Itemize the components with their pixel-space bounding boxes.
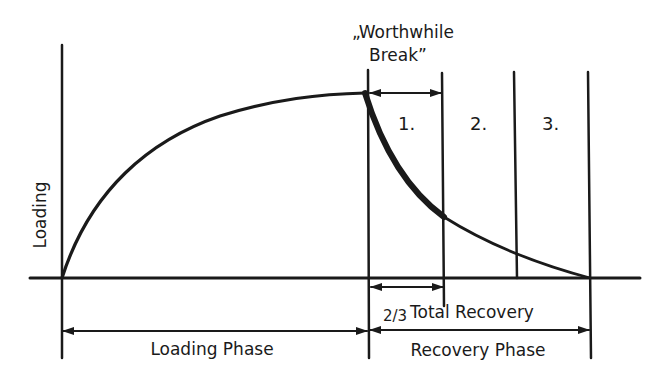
worthwhile-break-label-line1: „Worthwhile	[352, 22, 454, 42]
segment-1-label: 1.	[398, 113, 415, 134]
loading-curve	[62, 93, 365, 278]
segment-3-label: 3.	[542, 113, 559, 134]
two-thirds-label: Total Recovery	[409, 302, 534, 322]
segment-2-end-line	[514, 72, 517, 278]
segment-1-end-line	[442, 73, 444, 306]
y-axis-label: Loading	[30, 181, 50, 248]
recovery-phase-label: Recovery Phase	[411, 340, 546, 360]
worthwhile-break-label-line2: Break”	[369, 45, 427, 65]
loading-phase-label: Loading Phase	[150, 339, 273, 359]
loading-recovery-diagram: Loading „Worthwhile Break” 1. 2. 3. 2/3 …	[0, 0, 669, 383]
two-thirds-fraction: 2/3	[383, 307, 407, 325]
recovery-end-line	[588, 72, 591, 358]
recovery-curve-early	[365, 93, 444, 217]
segment-2-label: 2.	[470, 113, 487, 134]
